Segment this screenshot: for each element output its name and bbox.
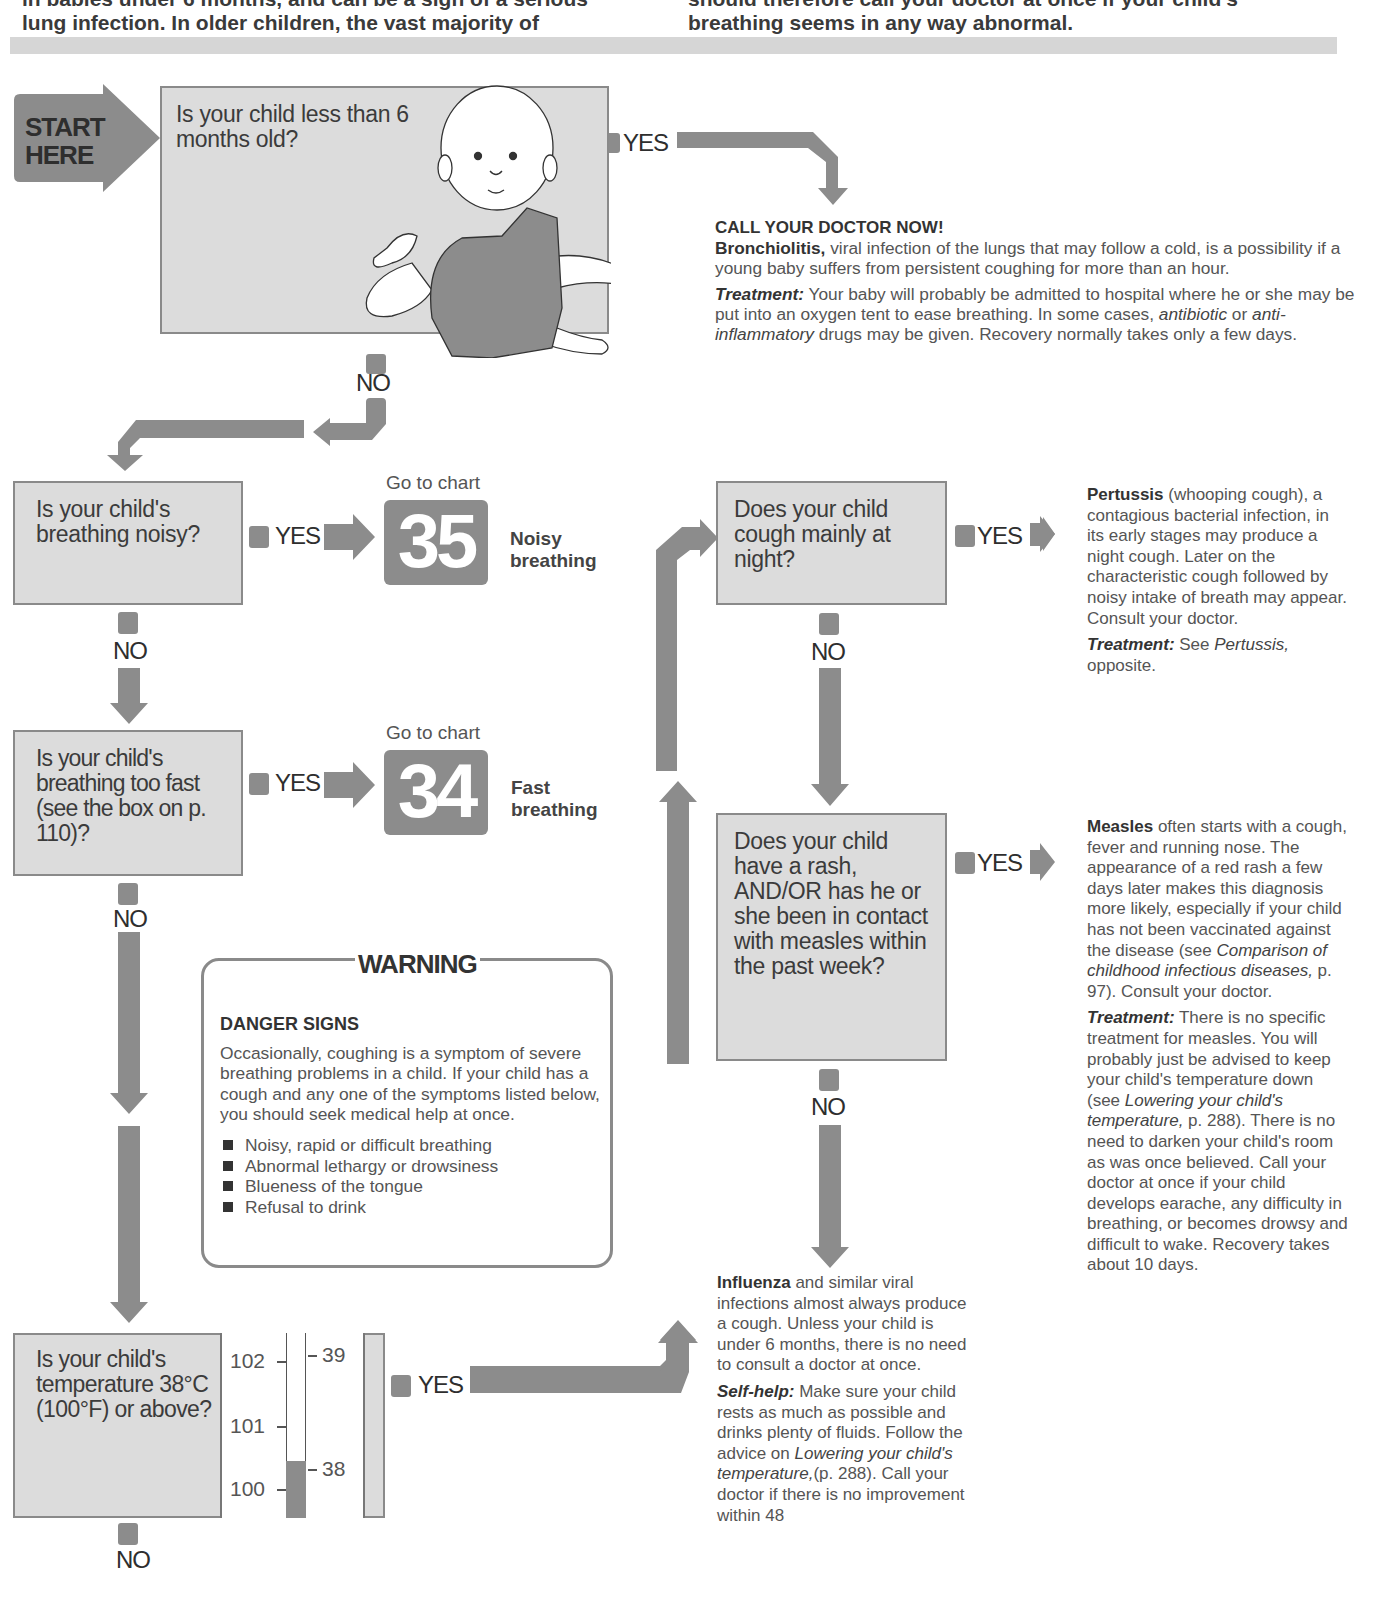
pertussis-treatment-b: opposite. bbox=[1087, 656, 1156, 675]
danger-sign-item: Abnormal lethargy or drowsiness bbox=[220, 1156, 600, 1177]
danger-sign-item: Noisy, rapid or difficult breathing bbox=[220, 1135, 600, 1156]
bronchiolitis-treatment-c: drugs may be given. Recovery normally ta… bbox=[814, 324, 1297, 344]
question-text-noisy-breathing: Is your child's breathing noisy? bbox=[36, 497, 236, 547]
no-label-q5: NO bbox=[811, 638, 845, 666]
pertussis-name: Pertussis bbox=[1087, 485, 1164, 504]
chart-34-badge[interactable]: 34 bbox=[384, 750, 488, 835]
fahrenheit-tick-100: 100 bbox=[230, 1477, 265, 1501]
fahrenheit-tick-102: 102 bbox=[230, 1349, 265, 1373]
measles-advice: Measles often starts with a cough, fever… bbox=[1087, 817, 1349, 1276]
start-label-line2: HERE bbox=[25, 141, 105, 169]
fahrenheit-tick-101: 101 bbox=[230, 1414, 265, 1438]
chart-34-name: Fast breathing bbox=[511, 777, 598, 821]
danger-sign-item: Refusal to drink bbox=[220, 1197, 600, 1218]
yes-label-q3: YES bbox=[275, 769, 320, 797]
no-label-q2: NO bbox=[113, 637, 147, 665]
start-label-line1: START bbox=[25, 113, 105, 141]
question-box-temperature: Is your child's temperature 38°C (100°F)… bbox=[13, 1333, 385, 1518]
question-box-fast-breathing: Is your child's breathing too fast (see … bbox=[13, 730, 243, 876]
no-label-q1: NO bbox=[356, 369, 390, 397]
bronchiolitis-treatment-label: Treatment: bbox=[715, 284, 804, 304]
yes-label-q6: YES bbox=[977, 849, 1022, 877]
warning-body: Occasionally, coughing is a symptom of s… bbox=[220, 1043, 600, 1125]
chart-35-badge[interactable]: 35 bbox=[384, 500, 488, 585]
influenza-advice: Influenza and similar viral infections a… bbox=[717, 1273, 972, 1526]
measles-description-a: often starts with a cough, fever and run… bbox=[1087, 817, 1347, 960]
question-text-fast-breathing: Is your child's breathing too fast (see … bbox=[36, 746, 236, 846]
pertussis-treatment-a: See bbox=[1175, 635, 1215, 654]
chart-35-name: Noisy breathing bbox=[510, 528, 597, 572]
danger-signs-heading: DANGER SIGNS bbox=[220, 1014, 600, 1035]
danger-signs-list: Noisy, rapid or difficult breathing Abno… bbox=[220, 1135, 600, 1217]
warning-title: WARNING bbox=[355, 949, 480, 980]
chart-35-name-line2: breathing bbox=[510, 550, 597, 572]
go-to-chart-label-35: Go to chart bbox=[386, 472, 480, 494]
pertussis-advice: Pertussis (whooping cough), a contagious… bbox=[1087, 485, 1347, 676]
bronchiolitis-name: Bronchiolitis, bbox=[715, 238, 825, 258]
celsius-tick-38: 38 bbox=[322, 1457, 345, 1481]
no-label-q3: NO bbox=[113, 905, 147, 933]
chart-35-name-line1: Noisy bbox=[510, 528, 597, 550]
question-box-under-6-months: Is your child less than 6 months old? bbox=[160, 86, 609, 334]
celsius-tick-39: 39 bbox=[322, 1343, 345, 1367]
chart-34-name-line2: breathing bbox=[511, 799, 598, 821]
question-text-temperature: Is your child's temperature 38°C (100°F)… bbox=[36, 1347, 226, 1422]
antibiotic-term: antibiotic bbox=[1159, 304, 1227, 324]
pertussis-treatment-ref: Pertussis, bbox=[1214, 635, 1289, 654]
question-box-noisy-breathing: Is your child's breathing noisy? bbox=[13, 481, 243, 605]
thermometer-scale: 102 101 100 39 38 bbox=[220, 1333, 365, 1518]
yes-label-q5: YES bbox=[977, 522, 1022, 550]
danger-sign-item: Blueness of the tongue bbox=[220, 1176, 600, 1197]
yes-label-q4: YES bbox=[418, 1371, 463, 1399]
influenza-selfhelp-label: Self-help: bbox=[717, 1382, 794, 1401]
bronchiolitis-treatment-b: or bbox=[1227, 304, 1252, 324]
measles-name: Measles bbox=[1087, 817, 1153, 836]
yes-label-q1: YES bbox=[623, 129, 668, 157]
pertussis-description: (whooping cough), a contagious bacterial… bbox=[1087, 485, 1347, 628]
start-here-label: START HERE bbox=[25, 113, 105, 169]
influenza-name: Influenza bbox=[717, 1273, 791, 1292]
yes-label-q2: YES bbox=[275, 522, 320, 550]
measles-treatment-b: p. 288). There is no need to darken your… bbox=[1087, 1111, 1348, 1274]
warning-content: DANGER SIGNS Occasionally, coughing is a… bbox=[220, 1014, 600, 1217]
measles-treatment-label: Treatment: bbox=[1087, 1008, 1175, 1027]
go-to-chart-label-34: Go to chart bbox=[386, 722, 480, 744]
chart-34-name-line1: Fast bbox=[511, 777, 598, 799]
pertussis-treatment-label: Treatment: bbox=[1087, 635, 1175, 654]
question-box-night-cough: Does your child cough mainly at night? bbox=[716, 481, 947, 605]
no-label-q6: NO bbox=[811, 1093, 845, 1121]
question-text-rash-measles: Does your child have a rash, AND/OR has … bbox=[734, 829, 939, 979]
baby-illustration bbox=[162, 58, 611, 358]
question-box-rash-measles: Does your child have a rash, AND/OR has … bbox=[716, 813, 947, 1061]
bronchiolitis-advice: CALL YOUR DOCTOR NOW! Bronchiolitis, vir… bbox=[715, 218, 1355, 344]
thermometer-mercury bbox=[286, 1461, 306, 1518]
call-doctor-heading: CALL YOUR DOCTOR NOW! bbox=[715, 218, 1355, 238]
question-text-night-cough: Does your child cough mainly at night? bbox=[734, 497, 939, 572]
no-label-q4: NO bbox=[116, 1546, 150, 1574]
